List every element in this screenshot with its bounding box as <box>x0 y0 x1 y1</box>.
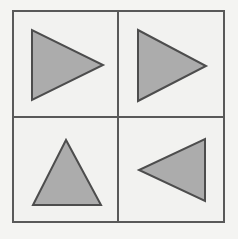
triangle-grid-svg <box>0 0 238 239</box>
figure-root <box>0 0 238 239</box>
